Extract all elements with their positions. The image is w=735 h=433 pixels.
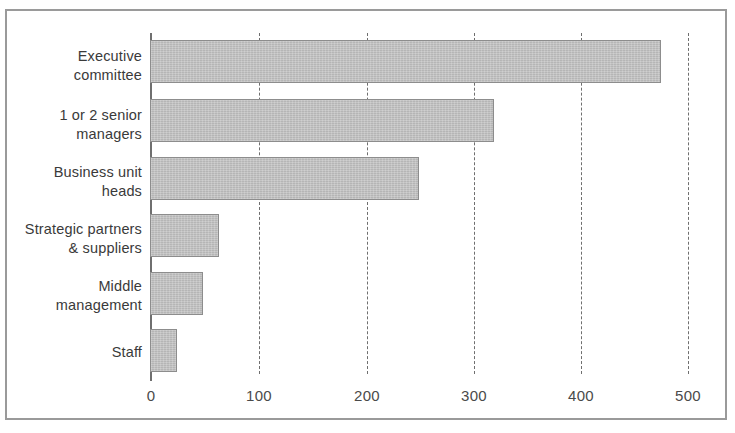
x-tick-label-200: 200 bbox=[337, 387, 397, 404]
gridline-100 bbox=[259, 33, 260, 374]
bar-middle-management bbox=[150, 272, 203, 315]
x-tick-label-500: 500 bbox=[658, 387, 718, 404]
bar-strategic-partners bbox=[150, 214, 219, 257]
bar-chart-figure: Executive committee 1 or 2 senior manage… bbox=[0, 0, 735, 433]
category-label-line1: Business unit bbox=[7, 163, 142, 182]
category-label-line1: Middle bbox=[7, 277, 142, 296]
category-label-line2: management bbox=[7, 296, 142, 315]
gridline-500 bbox=[688, 33, 689, 374]
category-label-middle-management: Middle management bbox=[7, 277, 142, 315]
bar-executive-committee bbox=[150, 40, 661, 83]
category-label-line1: Strategic partners bbox=[7, 220, 142, 239]
chart-frame-border: Executive committee 1 or 2 senior manage… bbox=[5, 9, 727, 420]
category-label-business-unit-heads: Business unit heads bbox=[7, 163, 142, 201]
category-label-executive-committee: Executive committee bbox=[7, 47, 142, 85]
category-label-staff: Staff bbox=[7, 343, 142, 362]
plot-area: Executive committee 1 or 2 senior manage… bbox=[7, 11, 725, 418]
gridline-400 bbox=[581, 33, 582, 374]
bar-business-unit-heads bbox=[150, 157, 419, 200]
category-label-line2: & suppliers bbox=[7, 239, 142, 258]
category-label-line2: committee bbox=[7, 66, 142, 85]
category-label-strategic-partners: Strategic partners & suppliers bbox=[7, 220, 142, 258]
category-label-line1: Executive bbox=[7, 47, 142, 66]
category-label-line1: Staff bbox=[7, 343, 142, 362]
category-label-line2: managers bbox=[7, 125, 142, 144]
bar-senior-managers bbox=[150, 99, 494, 142]
x-tick-label-300: 300 bbox=[444, 387, 504, 404]
gridline-300 bbox=[474, 33, 475, 374]
category-label-line1: 1 or 2 senior bbox=[7, 106, 142, 125]
x-tick-label-100: 100 bbox=[229, 387, 289, 404]
x-tick-label-400: 400 bbox=[551, 387, 611, 404]
gridline-200 bbox=[367, 33, 368, 374]
category-label-senior-managers: 1 or 2 senior managers bbox=[7, 106, 142, 144]
category-label-line2: heads bbox=[7, 182, 142, 201]
bar-staff bbox=[150, 329, 177, 372]
x-tick-label-0: 0 bbox=[121, 387, 181, 404]
